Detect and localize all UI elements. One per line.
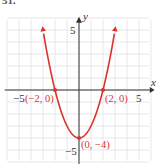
x-tick-label: −5: [13, 92, 25, 104]
key-point-label: (2, 0): [105, 93, 128, 105]
y-tick-label: −5: [65, 145, 77, 157]
parabola-chart: xy−555−5(−2, 0)(2, 0)(0, −4): [0, 0, 156, 164]
y-tick-label: 5: [70, 24, 76, 36]
key-point-marker: [101, 88, 105, 92]
x-axis-label: x: [150, 76, 156, 88]
x-tick-label: 5: [136, 92, 142, 104]
key-point-label: (−2, 0): [25, 93, 54, 105]
y-axis-label: y: [82, 10, 88, 22]
key-point-marker: [53, 88, 57, 92]
key-point-label: (0, −4): [81, 139, 110, 151]
